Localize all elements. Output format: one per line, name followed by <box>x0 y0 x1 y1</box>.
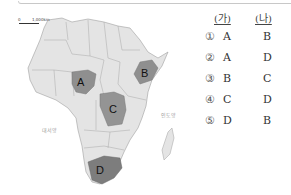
region-d <box>88 156 122 184</box>
choice-number: ⑤ <box>205 114 215 127</box>
scale-zero-label: 0 <box>18 17 21 22</box>
region-label-a: A <box>77 76 85 88</box>
choice-row-3[interactable]: ③ B C <box>205 72 291 88</box>
choice-row-2[interactable]: ② A D <box>205 51 291 67</box>
choice-number: ① <box>205 30 215 43</box>
indian-ocean-label: 인도양 <box>161 111 176 118</box>
choice-ga: B <box>223 72 231 85</box>
region-label-b: B <box>141 67 148 79</box>
scale-bar <box>19 23 39 24</box>
atlantic-ocean-label: 대서양 <box>42 126 57 133</box>
region-label-d: D <box>96 164 104 176</box>
choice-ga: A <box>223 30 231 43</box>
column-header-ga: (가) <box>214 10 231 25</box>
column-header-na: (나) <box>255 10 272 25</box>
madagascar <box>162 128 174 160</box>
choice-ga: C <box>223 93 231 106</box>
africa-map: A B C D <box>0 0 200 195</box>
choice-ga: D <box>223 114 232 127</box>
choice-na: B <box>263 114 271 127</box>
region-label-c: C <box>109 103 117 115</box>
choice-row-5[interactable]: ⑤ D B <box>205 114 291 130</box>
choice-number: ③ <box>205 72 215 85</box>
choice-na: D <box>263 51 272 64</box>
choice-ga: A <box>223 51 231 64</box>
choice-number: ② <box>205 51 215 64</box>
scale-distance-label: 1,000km <box>32 17 50 22</box>
choice-row-4[interactable]: ④ C D <box>205 93 291 109</box>
choice-na: D <box>263 93 272 106</box>
choice-na: B <box>263 30 271 43</box>
choice-na: C <box>263 72 271 85</box>
choice-number: ④ <box>205 93 215 106</box>
choice-row-1[interactable]: ① A B <box>205 30 291 46</box>
